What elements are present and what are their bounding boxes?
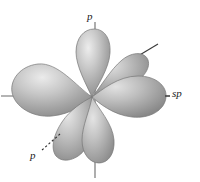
label-p-top: p <box>87 11 93 22</box>
label-p-lower-left: p <box>30 150 36 161</box>
orbital-diagram-figure: p sp p <box>0 0 200 182</box>
label-sp: sp <box>172 88 182 99</box>
orbital-lobes <box>12 29 166 163</box>
